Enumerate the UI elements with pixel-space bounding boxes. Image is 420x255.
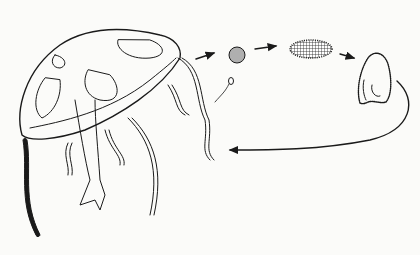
illustration [0,0,420,255]
gonads [36,40,163,118]
egg [229,47,245,63]
planula [290,40,332,58]
cycle-arrows [196,46,409,150]
jellyfish-life-cycle-figure [0,0,420,255]
manubrium [75,100,105,210]
bell-rim [30,58,176,128]
polyp [358,53,390,103]
medusa [20,30,214,235]
tentacles [23,58,214,235]
bell [20,30,180,139]
sperm [215,78,234,103]
